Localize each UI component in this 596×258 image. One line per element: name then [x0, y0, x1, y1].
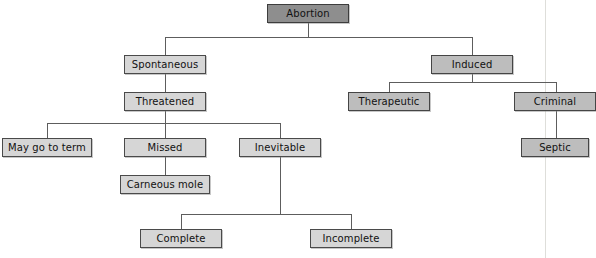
node-induced: Induced	[431, 55, 513, 74]
node-label-therapeutic: Therapeutic	[359, 97, 420, 107]
node-label-abortion: Abortion	[286, 9, 329, 19]
abortion-classification-diagram: AbortionSpontaneousInducedThreatenedTher…	[0, 0, 596, 258]
node-maygototerm: May go to term	[2, 138, 92, 157]
node-label-induced: Induced	[452, 60, 493, 70]
connector-inevitable-drop	[280, 157, 281, 214]
connector-spontaneous-riser	[165, 37, 166, 55]
node-label-spontaneous: Spontaneous	[132, 60, 198, 70]
page-edge-artifact	[545, 0, 546, 258]
node-inevitable: Inevitable	[239, 138, 321, 157]
node-carneousmole: Carneous mole	[120, 175, 210, 194]
connector-threatened-bus	[47, 123, 280, 124]
connector-therapeutic-riser	[389, 82, 390, 92]
node-label-complete: Complete	[157, 234, 206, 244]
node-label-incomplete: Incomplete	[323, 234, 380, 244]
node-spontaneous: Spontaneous	[124, 55, 206, 74]
connector-threatened-drop	[165, 111, 166, 123]
node-criminal: Criminal	[514, 92, 596, 111]
connector-abortion-bus	[165, 37, 472, 38]
node-complete: Complete	[140, 229, 222, 248]
node-label-inevitable: Inevitable	[255, 143, 305, 153]
connector-inevitable-riser	[280, 123, 281, 138]
connector-missed-riser	[165, 123, 166, 138]
node-label-carneousmole: Carneous mole	[127, 180, 203, 190]
connector-induced-bus	[389, 82, 556, 83]
connector-criminal-septic	[556, 111, 557, 138]
node-label-septic: Septic	[539, 143, 571, 153]
connector-missed-carneous	[165, 157, 166, 175]
node-label-missed: Missed	[148, 143, 183, 153]
connector-abortion-drop	[308, 23, 309, 37]
node-threatened: Threatened	[124, 92, 206, 111]
connector-maygototerm-riser	[47, 123, 48, 138]
connector-criminal-riser	[556, 82, 557, 92]
connector-complete-riser	[181, 214, 182, 229]
node-septic: Septic	[521, 138, 589, 157]
connector-inevitable-bus	[181, 214, 351, 215]
node-label-criminal: Criminal	[534, 97, 576, 107]
node-therapeutic: Therapeutic	[348, 92, 430, 111]
connector-induced-drop	[472, 74, 473, 82]
node-label-maygototerm: May go to term	[8, 143, 86, 153]
node-incomplete: Incomplete	[310, 229, 392, 248]
node-missed: Missed	[124, 138, 206, 157]
connector-induced-riser	[472, 37, 473, 55]
connector-spontaneous-threat	[165, 74, 166, 92]
node-abortion: Abortion	[267, 4, 349, 23]
connector-incomplete-riser	[351, 214, 352, 229]
node-label-threatened: Threatened	[136, 97, 195, 107]
